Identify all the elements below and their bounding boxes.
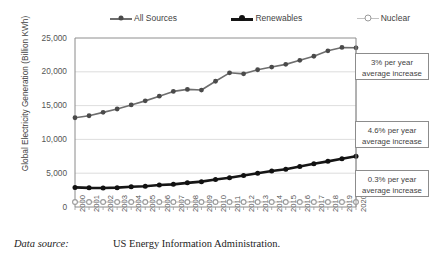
annotation-line-1: 0.3% per year [356, 175, 428, 186]
caption-label: Data source: [14, 238, 69, 249]
annotation-renewables-growth: 4.6% per year average increase [355, 121, 429, 148]
annotation-line-2: average increase [356, 137, 428, 148]
annotation-line-1: 4.6% per year [356, 126, 428, 137]
chart-figure: All Sources Renewables Nuclear Global El… [0, 0, 432, 262]
annotation-line-2: average increase [356, 186, 428, 197]
annotation-line-2: average increase [356, 69, 428, 80]
annotation-nuclear-growth: 0.3% per year average increase [355, 170, 429, 197]
caption-source-text: US Energy Information Administration. [113, 238, 280, 249]
annotation-line-1: 3% per year [356, 58, 428, 69]
figure-caption: Data source: US Energy Information Admin… [0, 238, 432, 258]
annotation-all-sources-growth: 3% per year average increase [355, 53, 429, 80]
